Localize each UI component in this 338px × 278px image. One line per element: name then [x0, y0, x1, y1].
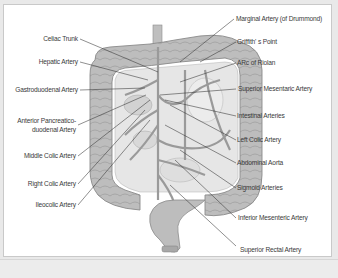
- label-inferior-mesenteric-artery: Inferior Mesenteric Artery: [238, 214, 308, 222]
- label-celiac-trunk: Celiac Trunk: [10, 35, 78, 43]
- label-sigmoid-arteries: Sigmoid Arteries: [237, 184, 283, 192]
- label-ileocolic-artery: Ileocolic Artery: [0, 201, 76, 209]
- label-gastroduodenal-artery: Gastroduodenal Artery: [0, 86, 78, 94]
- rectum: [150, 200, 205, 252]
- label-griffiths-point: Griffith' s Point: [237, 38, 277, 46]
- label-superior-rectal-artery: Superior Rectal Artery: [240, 246, 301, 254]
- label-superior-mesenteric-artery: Superior Mesentaric Artery: [238, 85, 312, 93]
- label-arc-of-riolan: ARc of Riolan: [237, 59, 275, 67]
- label-hepatic-artery: Hepatic Artery: [10, 58, 78, 66]
- label-right-colic-artery: Right Colic Artery: [0, 180, 76, 188]
- label-middle-colic-artery: Middle Colic Artery: [0, 152, 76, 160]
- label-anterior-pancreatico: Anterior Pancreatico-: [0, 117, 76, 125]
- label-intestinal-arteries: Intestinal Arteries: [237, 112, 285, 120]
- label-duodenal-artery: duodenal Artery: [0, 126, 76, 134]
- label-abdominal-aorta: Abdominal Aorta: [237, 159, 283, 167]
- label-marginal-artery: Marginal Artery (of Drummond): [236, 15, 322, 23]
- label-left-colic-artery: Left Colic Artery: [237, 136, 281, 144]
